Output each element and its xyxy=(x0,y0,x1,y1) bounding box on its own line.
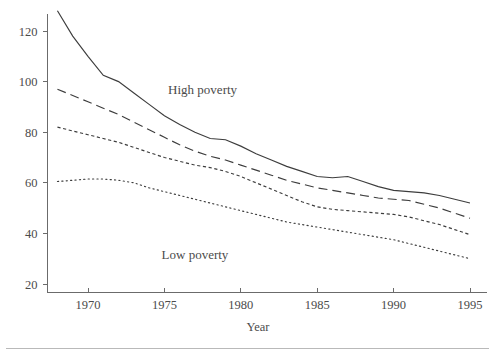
x-axis-tick-label: 1985 xyxy=(305,298,330,312)
series-lines xyxy=(57,11,470,259)
x-axis-tick-label: 1995 xyxy=(458,298,483,312)
x-axis-tick-label: 1990 xyxy=(381,298,406,312)
x-axis: 197019751980198519901995 xyxy=(48,288,488,312)
series-line xyxy=(57,11,470,203)
series-annotation-label: Low poverty xyxy=(162,247,229,262)
x-axis-tick-label: 1975 xyxy=(152,298,177,312)
x-axis-tick-label: 1980 xyxy=(228,298,253,312)
x-axis-title: Year xyxy=(246,320,270,334)
series-line xyxy=(57,179,470,259)
y-axis-tick-label: 40 xyxy=(25,227,38,241)
y-axis-tick-label: 80 xyxy=(25,126,38,140)
series-annotation-label: High poverty xyxy=(168,82,237,97)
x-axis-tick-label: 1970 xyxy=(76,298,101,312)
chart-figure: 20406080100120 197019751980198519901995 … xyxy=(0,0,495,354)
y-axis-tick-label: 60 xyxy=(25,176,38,190)
series-line xyxy=(57,89,470,218)
y-axis-tick-label: 120 xyxy=(19,25,38,39)
y-axis: 20406080100120 xyxy=(19,14,48,293)
y-axis-tick-label: 20 xyxy=(25,278,38,292)
y-axis-tick-label: 100 xyxy=(19,75,38,89)
line-chart: 20406080100120 197019751980198519901995 … xyxy=(0,0,495,354)
